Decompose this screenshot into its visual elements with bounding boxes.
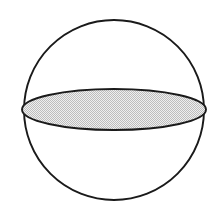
figure-container: Sphere with shaded equatorial cross-sect… bbox=[0, 0, 220, 222]
sphere-diagram bbox=[0, 0, 220, 222]
